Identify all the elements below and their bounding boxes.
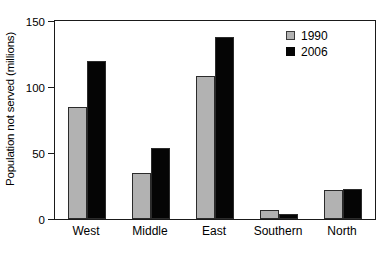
bar-group: [132, 21, 170, 219]
bar-east-2006: [215, 37, 234, 219]
x-axis-label-west: West: [54, 223, 118, 239]
legend-swatch-icon: [286, 47, 295, 56]
legend-label: 1990: [301, 29, 328, 43]
bar-middle-1990: [132, 173, 151, 219]
bar-west-2006: [87, 61, 106, 219]
y-axis-tick-label: 0: [39, 212, 45, 228]
chart-legend: 19902006: [286, 28, 356, 60]
y-axis-tick-label: 50: [32, 146, 45, 162]
bar-north-1990: [324, 190, 343, 219]
x-axis-label-east: East: [182, 223, 246, 239]
x-axis-label-middle: Middle: [118, 223, 182, 239]
y-axis-tick: 150: [48, 21, 55, 22]
y-axis-tick-label: 150: [26, 14, 45, 30]
y-axis-tick: 0: [48, 219, 55, 220]
x-axis-label-southern: Southern: [246, 223, 310, 239]
bar-group: [196, 21, 234, 219]
legend-label: 2006: [301, 45, 328, 59]
bar-west-1990: [68, 107, 87, 219]
bar-group: [68, 21, 106, 219]
y-axis-tick-label: 100: [26, 80, 45, 96]
bar-southern-2006: [279, 214, 298, 219]
bar-chart: Population not served (millions) 0501001…: [0, 0, 387, 256]
bar-middle-2006: [151, 148, 170, 219]
y-axis-tick: 50: [48, 153, 55, 154]
legend-item-1990: 1990: [286, 28, 356, 43]
y-axis-tick: 100: [48, 87, 55, 88]
bar-north-2006: [343, 189, 362, 219]
bar-southern-1990: [260, 210, 279, 219]
x-axis-label-north: North: [310, 223, 374, 239]
bar-east-1990: [196, 76, 215, 219]
y-axis-title: Population not served (millions): [0, 0, 20, 218]
legend-item-2006: 2006: [286, 44, 356, 59]
legend-swatch-icon: [286, 31, 295, 40]
